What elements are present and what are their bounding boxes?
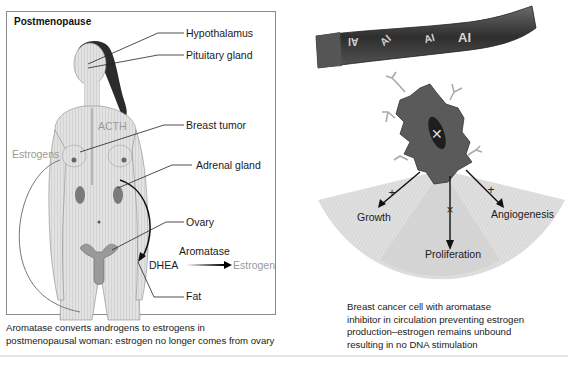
label-pituitary-gland: Pituitary gland — [186, 49, 253, 61]
label-growth: Growth — [357, 211, 391, 223]
figure-title: Postmenopause — [14, 16, 91, 27]
bottom-divider — [0, 355, 568, 357]
label-ovary: Ovary — [186, 216, 214, 228]
label-breast-tumor: Breast tumor — [186, 119, 246, 131]
label-proliferation: Proliferation — [425, 248, 481, 260]
label-estrogens: Estrogens — [12, 148, 59, 160]
svg-text:+: + — [487, 183, 494, 197]
label-acth: ACTH — [98, 120, 127, 132]
label-angiogenesis: Angiogenesis — [491, 208, 554, 220]
left-caption: Aromatase converts androgens to estrogen… — [6, 322, 274, 347]
vessel-ai-label-4: AI — [458, 30, 471, 45]
label-estrogen: Estrogen — [233, 259, 275, 271]
svg-text:×: × — [446, 203, 453, 217]
label-dhea: DHEA — [149, 259, 178, 271]
woman-figure — [49, 41, 148, 320]
vessel-ai-label-1: AI — [348, 36, 359, 48]
right-caption: Breast cancer cell with aromatase inhibi… — [347, 301, 524, 351]
label-aromatase: Aromatase — [179, 245, 230, 257]
nucleus-x-marker: ✕ — [431, 126, 443, 142]
svg-text:+: + — [388, 186, 395, 200]
label-hypothalamus: Hypothalamus — [186, 27, 253, 39]
aromatase-arrow — [186, 264, 224, 266]
label-adrenal-gland: Adrenal gland — [196, 159, 261, 171]
label-fat: Fat — [186, 290, 201, 302]
